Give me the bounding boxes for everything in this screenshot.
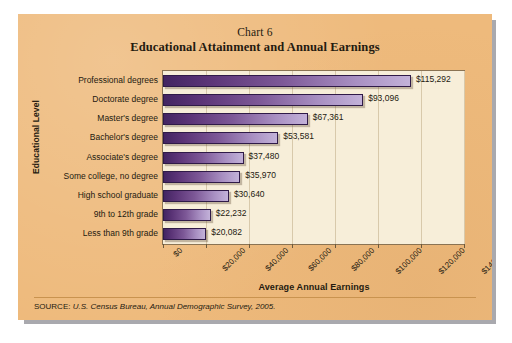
bar[interactable]	[163, 209, 211, 221]
bar-value-label: $30,640	[234, 189, 265, 199]
source-divider	[34, 297, 476, 298]
x-axis-tick-label: $100,000	[394, 246, 424, 276]
source-prefix: SOURCE:	[34, 302, 70, 311]
bar[interactable]	[163, 132, 278, 144]
bar-row[interactable]: $53,581	[163, 132, 464, 144]
x-axis-title: Average Annual Earnings	[162, 282, 466, 292]
bar[interactable]	[163, 228, 206, 240]
bar-value-label: $67,361	[313, 112, 344, 122]
title-block: Chart 6 Educational Attainment and Annua…	[18, 26, 492, 55]
chart-number: Chart 6	[18, 26, 492, 38]
bar[interactable]	[163, 152, 244, 164]
bar-row[interactable]: $22,232	[163, 209, 464, 221]
source-text: U.S. Census Bureau, Annual Demographic S…	[73, 302, 276, 311]
source-note: SOURCE: U.S. Census Bureau, Annual Demog…	[34, 302, 275, 311]
bar-value-label: $37,480	[249, 151, 280, 161]
plot-area: $115,292$93,096$67,361$53,581$37,480$35,…	[162, 70, 465, 245]
category-label-group: Professional degreesDoctorate degreeMast…	[18, 70, 158, 245]
bar[interactable]	[163, 75, 411, 87]
bar-row[interactable]: $67,361	[163, 113, 464, 125]
page-title: Educational Attainment and Annual Earnin…	[18, 40, 492, 55]
x-axis-tick-label: $80,000	[349, 246, 376, 273]
category-label: Master's degree	[20, 113, 158, 123]
bar-row[interactable]: $37,480	[163, 152, 464, 164]
bar[interactable]	[163, 190, 229, 202]
bar-row[interactable]: $93,096	[163, 94, 464, 106]
bar-value-label: $93,096	[368, 93, 399, 103]
x-axis-tick-label: $140,000	[480, 246, 492, 276]
bar-value-label: $115,292	[416, 74, 451, 84]
bar-value-label: $20,082	[211, 227, 242, 237]
x-axis-tick-label: $40,000	[263, 246, 290, 273]
bar[interactable]	[163, 171, 240, 183]
x-axis-tick-label: $20,000	[220, 246, 247, 273]
category-label: Bachelor's degree	[20, 132, 158, 142]
bar-row[interactable]: $115,292	[163, 75, 464, 87]
bar-row[interactable]: $35,970	[163, 171, 464, 183]
category-label: Less than 9th grade	[20, 228, 158, 238]
bar-row[interactable]: $20,082	[163, 228, 464, 240]
bar-value-label: $53,581	[283, 131, 314, 141]
category-label: Professional degrees	[20, 75, 158, 85]
category-label: High school graduate	[20, 190, 158, 200]
bar-row[interactable]: $30,640	[163, 190, 464, 202]
x-axis-tick-label: $120,000	[437, 246, 467, 276]
x-axis-tick-label-group: $0$20,000$40,000$60,000$80,000$100,000$1…	[162, 246, 492, 286]
category-label: 9th to 12th grade	[20, 209, 158, 219]
category-label: Some college, no degree	[20, 171, 158, 181]
gridline	[464, 71, 465, 244]
x-axis-tick-label: $60,000	[306, 246, 333, 273]
bar[interactable]	[163, 94, 363, 106]
page: Chart 6 Educational Attainment and Annua…	[0, 0, 512, 343]
chart-card: Chart 6 Educational Attainment and Annua…	[18, 14, 492, 320]
category-label: Doctorate degree	[20, 94, 158, 104]
category-label: Associate's degree	[20, 152, 158, 162]
bar-value-label: $35,970	[245, 170, 276, 180]
x-axis-tick-label: $0	[172, 246, 185, 259]
bar[interactable]	[163, 113, 308, 125]
bar-value-label: $22,232	[216, 208, 247, 218]
